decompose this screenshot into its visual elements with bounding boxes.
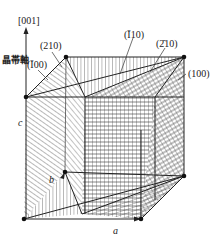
axis-c-label: c	[18, 117, 23, 128]
plane-m100-label: (Ī00)	[27, 59, 47, 71]
axis-a-label: a	[113, 225, 118, 235]
plane-m210-label: (2̄10)	[156, 38, 178, 50]
axis-b-label: b	[49, 174, 54, 185]
crystal-zone-diagram: [001] 晶帯軸 (210) (Ī00) (Ī10) (2̄10) (100)…	[0, 0, 223, 235]
plane-210-label: (210)	[40, 40, 62, 52]
zone-axis-label: 晶帯軸	[2, 54, 29, 65]
plane-m110-label: (Ī10)	[124, 29, 144, 41]
axis-001-label: [001]	[18, 15, 40, 26]
plane-100-label: (100)	[188, 68, 210, 80]
